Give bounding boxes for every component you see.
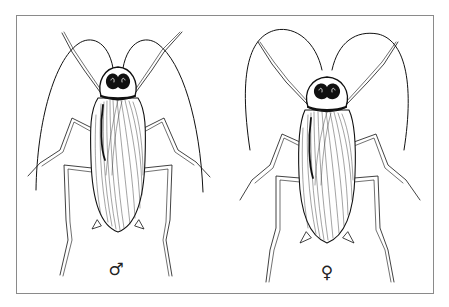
female-hindleg-left xyxy=(266,176,300,282)
male-symbol: ♂ xyxy=(108,261,123,278)
female-midleg-right xyxy=(354,134,420,200)
male-wings xyxy=(91,98,146,232)
male-hindleg-left xyxy=(60,165,92,275)
male-midleg-right xyxy=(144,118,210,177)
cockroach-illustration xyxy=(0,0,449,307)
female-cockroach xyxy=(240,29,420,282)
male-cockroach xyxy=(28,32,210,276)
female-symbol: ♀ xyxy=(321,264,333,281)
male-foreleg-right xyxy=(136,32,182,92)
